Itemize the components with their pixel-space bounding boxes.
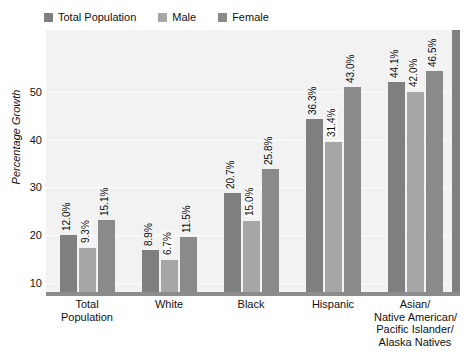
legend-label: Total Population <box>58 12 136 23</box>
bar[interactable] <box>306 119 323 292</box>
legend-item-total-population: Total Population <box>44 12 136 23</box>
bar[interactable] <box>407 92 424 292</box>
bar-value-label: 12.0% <box>62 202 72 230</box>
bar-group: 44.1%42.0%46.5% <box>374 30 456 292</box>
bar-group: 8.9%6.7%11.5% <box>128 30 210 292</box>
y-tick-label: 10 <box>2 277 42 288</box>
legend-label: Female <box>232 12 269 23</box>
bar-slot: 8.9% <box>142 30 159 292</box>
x-axis-category-label: Hispanic <box>292 298 374 311</box>
legend-swatch-icon <box>218 13 227 22</box>
bar-slot: 12.0% <box>60 30 77 292</box>
bar[interactable] <box>344 87 361 292</box>
x-axis-label-line: Black <box>210 298 292 311</box>
y-axis-title: Percentage Growth <box>10 67 22 207</box>
bar[interactable] <box>180 237 197 292</box>
bar[interactable] <box>60 235 77 292</box>
bars-layer: 12.0%9.3%15.1%8.9%6.7%11.5%20.7%15.0%25.… <box>46 30 456 292</box>
bar[interactable] <box>142 250 159 292</box>
bar-slot: 31.4% <box>325 30 342 292</box>
legend-item-female: Female <box>218 12 269 23</box>
bar[interactable] <box>388 82 405 292</box>
x-axis-label-line: Asian/ <box>374 298 456 311</box>
chart-legend: Total Population Male Female <box>44 8 291 26</box>
bar[interactable] <box>98 220 115 292</box>
x-axis-category-label: Black <box>210 298 292 311</box>
bar[interactable] <box>161 260 178 292</box>
bar-value-label: 9.3% <box>81 219 91 244</box>
bar-slot: 9.3% <box>79 30 96 292</box>
x-axis-label-line: Total <box>46 298 128 311</box>
bar-group: 20.7%15.0%25.8% <box>210 30 292 292</box>
bar-value-label: 8.9% <box>144 223 154 246</box>
y-tick-label: 40 <box>2 134 42 145</box>
x-axis-label-line: Hispanic <box>292 298 374 311</box>
bar[interactable] <box>262 169 279 292</box>
legend-swatch-icon <box>44 13 53 22</box>
bar-slot: 20.7% <box>224 30 241 292</box>
bar-value-label: 42.0% <box>409 58 419 88</box>
bar-value-label: 36.3% <box>308 87 318 115</box>
bar[interactable] <box>224 193 241 292</box>
bar[interactable] <box>79 248 96 292</box>
bar-slot: 36.3% <box>306 30 323 292</box>
x-axis-label-line: Population <box>46 311 128 324</box>
bar-slot: 15.0% <box>243 30 260 292</box>
bar-value-label: 20.7% <box>226 161 236 189</box>
legend-label: Male <box>172 12 196 23</box>
bar-value-label: 25.8% <box>264 137 274 165</box>
bar-slot: 46.5% <box>426 30 443 292</box>
legend-item-male: Male <box>158 12 196 23</box>
bar[interactable] <box>325 142 342 292</box>
plot-right-edge <box>452 30 460 292</box>
bar[interactable] <box>243 221 260 292</box>
bar-value-label: 43.0% <box>346 55 356 83</box>
y-tick-label: 50 <box>2 86 42 97</box>
bar-slot: 15.1% <box>98 30 115 292</box>
x-axis-label-line: Pacific Islander/ <box>374 323 456 336</box>
x-axis-category-label: White <box>128 298 210 311</box>
bar-value-label: 15.1% <box>100 188 110 216</box>
bar-slot: 25.8% <box>262 30 279 292</box>
bar-group: 12.0%9.3%15.1% <box>46 30 128 292</box>
x-axis-category-label: TotalPopulation <box>46 298 128 323</box>
bar-slot: 42.0% <box>407 30 424 292</box>
bar-slot: 6.7% <box>161 30 178 292</box>
x-axis-label-line: Native American/ <box>374 311 456 324</box>
bar-value-label: 6.7% <box>163 231 173 256</box>
bar-value-label: 15.0% <box>245 186 255 216</box>
x-axis-label-line: White <box>128 298 210 311</box>
bar-slot: 44.1% <box>388 30 405 292</box>
x-axis-label-line: Alaska Natives <box>374 336 456 349</box>
x-axis-labels: TotalPopulationWhiteBlackHispanicAsian/N… <box>46 298 456 358</box>
bar-slot: 11.5% <box>180 30 197 292</box>
bar-value-label: 11.5% <box>182 206 192 234</box>
y-tick-label: 20 <box>2 229 42 240</box>
bar-chart: Total Population Male Female 50 40 30 20… <box>0 0 470 360</box>
x-axis-baseline <box>46 292 460 296</box>
bar-value-label: 46.5% <box>428 38 438 66</box>
bar-value-label: 44.1% <box>390 50 400 78</box>
x-axis-category-label: Asian/Native American/Pacific Islander/A… <box>374 298 456 348</box>
bar[interactable] <box>426 71 443 293</box>
bar-group: 36.3%31.4%43.0% <box>292 30 374 292</box>
legend-swatch-icon <box>158 13 167 22</box>
y-tick-label: 30 <box>2 182 42 193</box>
bar-slot: 43.0% <box>344 30 361 292</box>
bar-value-label: 31.4% <box>327 108 337 138</box>
